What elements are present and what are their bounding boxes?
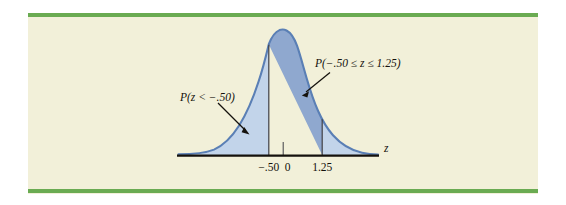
x-tick-label-one-point-two-five: 1.25: [312, 161, 332, 173]
interval-shaded-region: [269, 30, 322, 155]
x-axis-label-z: z: [383, 142, 389, 154]
x-tick-label-zero: 0: [285, 161, 291, 173]
normal-curve-plot: P(z < −.50) P(−.50 ≤ z ≤ 1.25) −.50 0 1.…: [0, 0, 566, 205]
right-probability-label: P(−.50 ≤ z ≤ 1.25): [314, 57, 401, 70]
left-probability-label: P(z < −.50): [179, 91, 235, 104]
x-tick-label-neg-point-five: −.50: [258, 161, 279, 173]
figure-root: P(z < −.50) P(−.50 ≤ z ≤ 1.25) −.50 0 1.…: [0, 0, 566, 205]
